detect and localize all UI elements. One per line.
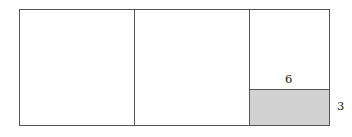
- horizontal-divider: [249, 89, 330, 90]
- width-dimension-label: 6: [285, 74, 292, 86]
- figure-canvas: 6 3: [0, 0, 352, 137]
- shaded-rectangle: [250, 90, 329, 125]
- height-dimension-label: 3: [337, 101, 344, 113]
- vertical-divider-1: [134, 9, 135, 126]
